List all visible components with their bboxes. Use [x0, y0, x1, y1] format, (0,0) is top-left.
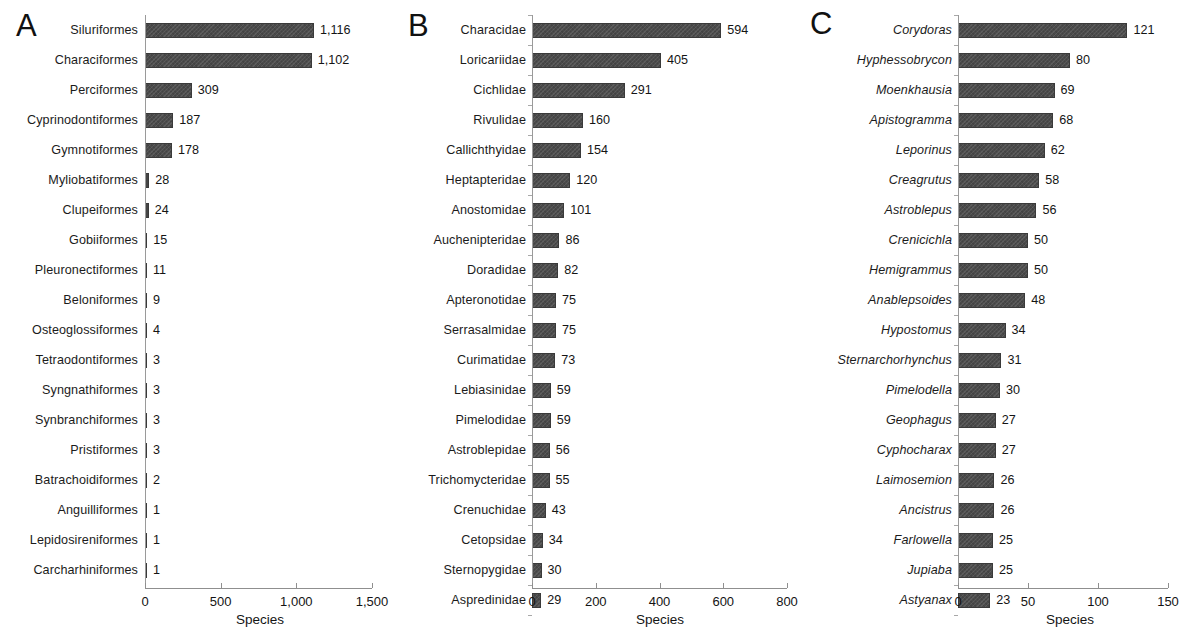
bar-row: Sternarchorhynchus31: [790, 345, 1190, 375]
bar-value-label: 1: [153, 495, 160, 525]
category-label: Gymnotiformes: [51, 135, 138, 165]
bar: [532, 263, 558, 278]
bar-row: Jupiaba25: [790, 555, 1190, 585]
bar-value-label: 56: [556, 435, 570, 465]
category-label: Carcharhiniformes: [33, 555, 138, 585]
bar-value-label: 309: [198, 75, 219, 105]
bar: [532, 53, 661, 68]
category-label: Lepidosireniformes: [30, 525, 138, 555]
y-axis-tick: [954, 195, 958, 196]
bar-row: Auchenipteridae86: [400, 225, 800, 255]
bar-row: Gobiiformes15: [0, 225, 400, 255]
x-axis-title: Species: [636, 612, 684, 627]
category-label: Gobiiformes: [69, 225, 138, 255]
y-axis-tick: [528, 525, 532, 526]
category-label: Pimelodidae: [456, 405, 526, 435]
bar-value-label: 4: [153, 315, 160, 345]
bar-value-label: 26: [1000, 495, 1014, 525]
bar: [532, 443, 550, 458]
category-label: Cyprinodontiformes: [27, 105, 138, 135]
bar-row: Cichlidae291: [400, 75, 800, 105]
bar-row: Anguilliformes1: [0, 495, 400, 525]
bar-value-label: 291: [631, 75, 652, 105]
bar-row: Leporinus62: [790, 135, 1190, 165]
x-axis-tick-label: 150: [1157, 594, 1179, 609]
bar-row: Corydoras121: [790, 15, 1190, 45]
bar: [145, 113, 173, 128]
panel-c: C Corydoras121Hyphessobrycon80Moenkhausi…: [790, 0, 1190, 630]
x-axis-tick-label: 500: [210, 594, 232, 609]
y-axis-tick: [954, 615, 958, 616]
bar-row: Lebiasinidae59: [400, 375, 800, 405]
bar: [145, 83, 192, 98]
category-label: Doradidae: [467, 255, 526, 285]
bar-value-label: 25: [999, 555, 1013, 585]
category-label: Leporinus: [896, 135, 952, 165]
category-label: Cetopsidae: [461, 525, 526, 555]
bar-row: Anablepsoides48: [790, 285, 1190, 315]
bar-value-label: 9: [153, 285, 160, 315]
bar: [145, 23, 314, 38]
bar-value-label: 3: [153, 375, 160, 405]
x-axis-tick: [1168, 583, 1169, 588]
bar-value-label: 34: [1012, 315, 1026, 345]
bar-row: Characiformes1,102: [0, 45, 400, 75]
category-label: Laimosemion: [876, 465, 952, 495]
bar-value-label: 59: [557, 405, 571, 435]
bar-row: Pimelodidae59: [400, 405, 800, 435]
x-axis-tick-label: 1,000: [280, 594, 313, 609]
y-axis-tick: [528, 285, 532, 286]
x-axis-tick-label: 100: [1087, 594, 1109, 609]
category-label: Cyphocharax: [877, 435, 952, 465]
bar: [958, 503, 994, 518]
category-label: Pleuronectiformes: [35, 255, 138, 285]
x-axis-tick-label: 1,500: [356, 594, 389, 609]
bar-value-label: 27: [1002, 435, 1016, 465]
category-label: Hemigrammus: [869, 255, 952, 285]
category-label: Anablepsoides: [868, 285, 952, 315]
bar-row: Rivulidae160: [400, 105, 800, 135]
bar-value-label: 73: [561, 345, 575, 375]
category-label: Siluriformes: [70, 15, 138, 45]
x-axis-tick: [1098, 583, 1099, 588]
bar: [958, 113, 1053, 128]
bar-row: Syngnathiformes3: [0, 375, 400, 405]
bar-value-label: 30: [548, 555, 562, 585]
y-axis-tick: [954, 465, 958, 466]
x-axis-tick-label: 0: [141, 594, 148, 609]
bar-row: Heptapteridae120: [400, 165, 800, 195]
y-axis-line: [958, 15, 959, 588]
x-axis-tick: [787, 583, 788, 588]
bar-value-label: 27: [1002, 405, 1016, 435]
bar: [958, 413, 996, 428]
bar-row: Hemigrammus50: [790, 255, 1190, 285]
category-label: Creagrutus: [889, 165, 952, 195]
y-axis-tick: [954, 15, 958, 16]
bar-row: Tetraodontiformes3: [0, 345, 400, 375]
bar-value-label: 86: [565, 225, 579, 255]
bar: [532, 473, 550, 488]
y-axis-tick: [528, 195, 532, 196]
category-label: Astroblepus: [884, 195, 952, 225]
x-axis-tick: [1028, 583, 1029, 588]
bar-row: Synbranchiformes3: [0, 405, 400, 435]
bar-row: Siluriformes1,116: [0, 15, 400, 45]
y-axis-tick: [954, 75, 958, 76]
x-axis-tick-label: 200: [585, 594, 607, 609]
bar-row: Crenicichla50: [790, 225, 1190, 255]
figure-bar-charts: A Siluriformes1,116Characiformes1,102Per…: [0, 0, 1190, 630]
bar-row: Doradidae82: [400, 255, 800, 285]
y-axis-tick: [954, 225, 958, 226]
x-axis-tick: [660, 583, 661, 588]
bar-value-label: 59: [557, 375, 571, 405]
bar-row: Pimelodella30: [790, 375, 1190, 405]
y-axis-line: [145, 15, 146, 588]
bar-value-label: 1,116: [320, 15, 351, 45]
x-axis-line: [145, 588, 372, 589]
x-axis-line: [532, 588, 787, 589]
bar-value-label: 69: [1061, 75, 1075, 105]
bar-value-label: 11: [153, 255, 166, 285]
bar-value-label: 29: [547, 585, 561, 615]
category-label: Moenkhausia: [876, 75, 952, 105]
bar-row: Clupeiformes24: [0, 195, 400, 225]
